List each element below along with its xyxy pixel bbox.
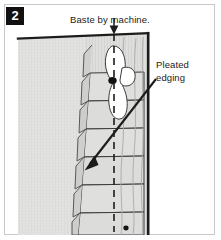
top-caption: Baste by machine. (70, 14, 190, 25)
pin-dot (108, 77, 116, 84)
pleat-fold (80, 184, 144, 213)
pleated-edging-label-line2: edging (156, 72, 218, 85)
illustration-root: 2 Baste by machine. Pleated edging (0, 0, 221, 240)
pleated-edging-label: Pleated edging (156, 59, 218, 84)
bottom-dot (123, 226, 128, 231)
pleated-edging-label-line1: Pleated (156, 59, 218, 72)
step-number-badge: 2 (6, 7, 24, 25)
pleated-edging-diagram (4, 4, 215, 235)
